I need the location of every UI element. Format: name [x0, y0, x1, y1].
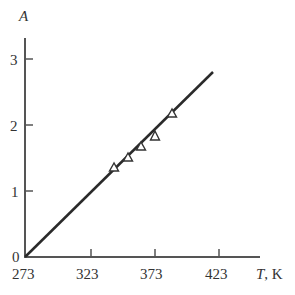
fit-line	[25, 72, 213, 257]
y-tick-label-2: 2	[10, 118, 18, 134]
y-tick-label-0: 0	[12, 249, 20, 265]
x-tick-label-273: 273	[12, 266, 35, 282]
y-axis-label: A	[18, 8, 29, 24]
x-tick-label-323: 323	[76, 266, 99, 282]
x-tick-label-373: 373	[140, 266, 163, 282]
y-tick-label-1: 1	[11, 184, 19, 200]
x-tick-label-423: 423	[205, 266, 228, 282]
x-axis-label: T, K	[256, 266, 283, 282]
x-ticks	[91, 249, 219, 257]
y-ticks	[25, 59, 33, 191]
chart: A 3 2 1 0 273 323 373 423 T, K	[0, 0, 295, 295]
y-tick-label-3: 3	[10, 52, 18, 68]
